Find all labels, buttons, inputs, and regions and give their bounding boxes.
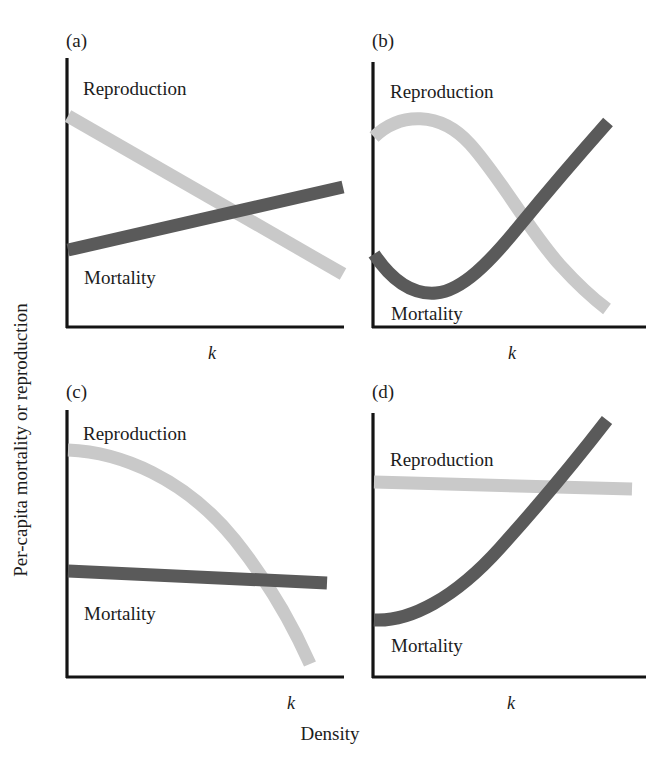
figure-canvas: Per-capita mortality or reproduction (a)… [0,0,661,759]
panel-a-mortality-label: Mortality [84,267,156,288]
panel-c-mortality-label: Mortality [84,603,156,624]
panel-c-tick-k: k [287,693,296,713]
figure-density-dependence: Per-capita mortality or reproduction (a)… [0,0,661,759]
panel-d-reproduction-label: Reproduction [390,449,494,470]
panel-b-reproduction-label: Reproduction [390,81,494,102]
x-axis-title: Density [300,723,360,744]
panel-d-label: (d) [372,381,394,403]
panel-a-tick-k: k [208,343,217,363]
panel-c-mortality-curve [68,571,327,583]
panel-c-reproduction-label: Reproduction [83,423,187,444]
panel-c-label: (c) [66,381,87,403]
panel-b-tick-k: k [508,343,517,363]
panel-c: (c) Reproduction Mortality k [66,381,344,713]
panel-b-label: (b) [372,30,394,52]
panel-b-mortality-curve [374,122,608,293]
panel-d-tick-k: k [507,693,516,713]
panel-d: (d) Reproduction Mortality k [372,381,646,713]
panel-d-reproduction-curve [374,482,632,489]
y-axis-title: Per-capita mortality or reproduction [10,303,31,577]
panel-c-reproduction-curve [68,450,310,664]
panel-a: (a) Reproduction Mortality k [66,30,344,363]
panel-a-label: (a) [66,30,87,52]
panel-a-reproduction-label: Reproduction [83,78,187,99]
panel-d-mortality-label: Mortality [391,635,463,656]
panel-b-mortality-label: Mortality [391,303,463,324]
panel-b: (b) Reproduction Mortality k [372,30,646,363]
